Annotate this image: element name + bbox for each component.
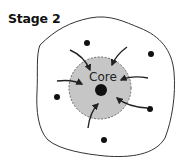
particle-dot xyxy=(148,51,154,57)
particle-dot xyxy=(147,106,153,112)
particle-dot xyxy=(101,137,107,143)
particle-dot xyxy=(84,40,90,46)
stage-diagram: Core xyxy=(0,0,183,161)
particle-dot xyxy=(54,94,60,100)
core-nucleus-dot xyxy=(95,84,107,96)
core-label: Core xyxy=(89,70,117,84)
